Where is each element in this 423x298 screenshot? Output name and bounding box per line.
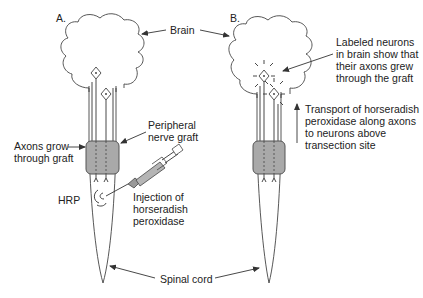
spinal-cord-label: Spinal cord: [160, 273, 213, 285]
graft-a: [86, 141, 119, 174]
brain-label: Brain: [170, 24, 195, 36]
panel-b: B.: [229, 12, 312, 283]
panel-a: A.: [56, 12, 183, 283]
injection-label: Injection of horseradish peroxidase: [133, 191, 191, 227]
transport-label: Transport of horseradish peroxidase alon…: [305, 103, 422, 151]
panel-a-label: A.: [56, 12, 66, 24]
panel-b-label: B.: [230, 12, 240, 24]
spinal-cord-b: [257, 94, 281, 283]
labeled-neurons-label: Labeled neurons in brain show that their…: [336, 36, 421, 84]
spinal-cord-a: [89, 88, 116, 283]
hrp-label: HRP: [58, 194, 80, 206]
graft-b: [253, 141, 285, 174]
brain-a: [61, 14, 144, 88]
brain-b: [229, 16, 312, 94]
axons-grow-label: Axons grow through graft: [14, 140, 74, 164]
diagram-stage: A.: [0, 0, 423, 298]
peripheral-graft-label: Peripheral nerve graft: [148, 119, 199, 143]
